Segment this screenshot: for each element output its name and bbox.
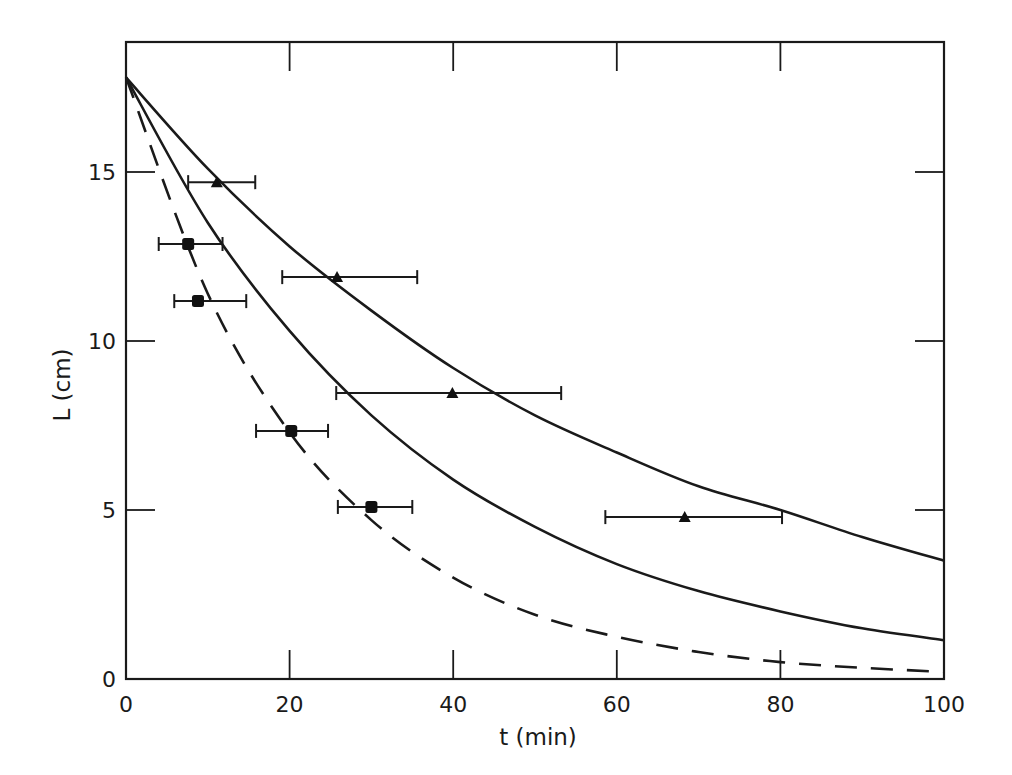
dashed-curve [126,77,944,672]
x-tick-label: 80 [766,692,794,717]
square-marker [182,238,194,250]
x-tick-label: 40 [439,692,467,717]
data-points [159,175,782,524]
axis-ticks [126,42,944,679]
y-tick-label: 15 [88,160,116,185]
square-marker [365,501,377,513]
square-marker [192,295,204,307]
x-tick-label: 0 [119,692,133,717]
x-axis-label: t (min) [499,724,577,750]
y-tick-label: 0 [102,667,116,692]
y-tick-label: 5 [102,498,116,523]
plot-border [126,42,944,679]
x-tick-label: 100 [923,692,965,717]
x-tick-label: 20 [276,692,304,717]
solid-curve [126,77,944,560]
square-marker [285,425,297,437]
solid-curve [126,77,944,640]
curves [126,77,944,672]
y-axis-label: L (cm) [49,348,75,421]
chart: 020406080100051015 t (min) L (cm) [0,0,1012,775]
x-tick-label: 60 [603,692,631,717]
y-tick-label: 10 [88,329,116,354]
plot-frame [126,42,944,679]
